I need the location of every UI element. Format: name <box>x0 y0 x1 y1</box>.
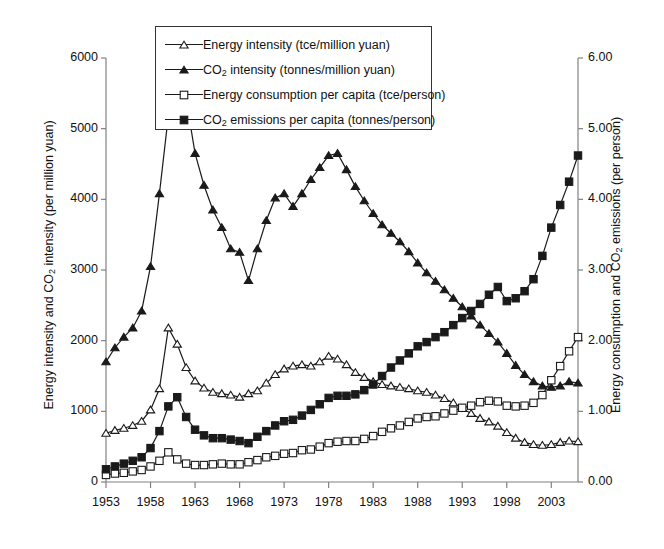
x-axis-tick-label: 1953 <box>81 495 131 509</box>
x-axis-tick-label: 2003 <box>526 495 576 509</box>
x-axis-tick-label: 1963 <box>170 495 220 509</box>
legend-item-1: CO2 intensity (tonnes/million yuan) <box>156 57 431 82</box>
y-axis-right-tick-label: 0.00 <box>588 474 638 488</box>
filled-square-icon <box>165 113 203 127</box>
x-axis-tick-label: 1993 <box>437 495 487 509</box>
x-axis-tick-label: 1973 <box>259 495 309 509</box>
legend-item-2: Energy consumption per capita (tce/perso… <box>156 82 431 107</box>
open-triangle-icon <box>165 38 203 52</box>
y-axis-right-tick-label: 2.00 <box>588 333 638 347</box>
y-axis-right-tick-label: 5.00 <box>588 121 638 135</box>
y-axis-right-tick-label: 6.00 <box>588 50 638 64</box>
y-axis-right-tick-label: 4.00 <box>588 191 638 205</box>
legend-item-label: CO2 intensity (tonnes/million yuan) <box>203 63 395 77</box>
x-axis-tick-label: 1988 <box>393 495 443 509</box>
x-axis-tick-label: 1998 <box>482 495 532 509</box>
x-axis-tick-label: 1983 <box>348 495 398 509</box>
filled-triangle-icon <box>165 63 203 77</box>
legend-item-label: Energy consumption per capita (tce/perso… <box>203 88 446 102</box>
y-axis-left-tick-label: 0 <box>48 474 98 488</box>
x-axis-tick-label: 1968 <box>215 495 265 509</box>
y-axis-left-tick-label: 3000 <box>48 262 98 276</box>
legend-item-0: Energy intensity (tce/million yuan) <box>156 32 431 57</box>
chart-series-0 <box>102 324 582 448</box>
chart-figure: Energy intensity and CO2 intensity (per … <box>0 0 664 549</box>
legend-item-label: Energy intensity (tce/million yuan) <box>203 38 390 52</box>
y-axis-right-title-sub: 2 <box>614 248 624 253</box>
y-axis-right-tick-label: 1.00 <box>588 403 638 417</box>
x-axis-tick-label: 1978 <box>304 495 354 509</box>
chart-legend: Energy intensity (tce/million yuan)CO2 i… <box>155 26 432 130</box>
y-axis-left-tick-label: 6000 <box>48 50 98 64</box>
y-axis-left-tick-label: 2000 <box>48 333 98 347</box>
y-axis-right-title-suffix: emissions (per person) <box>609 117 623 248</box>
chart-series-3 <box>102 152 581 473</box>
y-axis-left-tick-label: 4000 <box>48 191 98 205</box>
open-square-icon <box>165 88 203 102</box>
y-axis-left-tick-label: 1000 <box>48 403 98 417</box>
y-axis-right-tick-label: 3.00 <box>588 262 638 276</box>
legend-item-3: CO2 emissions per capita (tonnes/person) <box>156 107 431 132</box>
legend-item-label: CO2 emissions per capita (tonnes/person) <box>203 113 435 127</box>
y-axis-left-tick-label: 5000 <box>48 121 98 135</box>
x-axis-tick-label: 1958 <box>126 495 176 509</box>
